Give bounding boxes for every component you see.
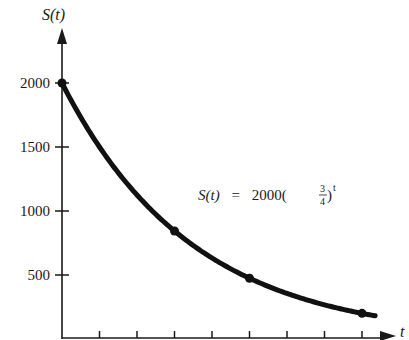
data-point xyxy=(358,309,367,318)
svg-text:S(t) = 2000(: S(t) = 2000( xyxy=(198,187,287,204)
data-point xyxy=(170,227,179,236)
data-point xyxy=(245,274,254,283)
formula-lhs: S(t) xyxy=(198,187,220,204)
formula-equals: = xyxy=(231,187,239,203)
formula-numerator: 3 xyxy=(320,183,325,194)
x-axis-arrow-icon xyxy=(380,331,396,340)
y-tick-label: 500 xyxy=(28,267,51,283)
y-tick-label: 2000 xyxy=(20,75,50,91)
formula-annotation: S(t) = 2000( 3 4 ) t xyxy=(198,182,336,207)
x-ticks xyxy=(100,331,363,338)
data-point xyxy=(58,79,67,88)
svg-text:): ) xyxy=(327,187,332,204)
exponential-decay-chart: S(t) t 500100015002000 S(t) = 2000( 3 4 … xyxy=(0,0,409,340)
formula-exponent: t xyxy=(333,182,336,193)
x-axis-title: t xyxy=(400,323,405,340)
formula-coefficient: 2000 xyxy=(252,187,282,203)
y-axis-title: S(t) xyxy=(42,6,65,24)
y-axis-arrow-icon xyxy=(57,28,67,44)
y-tick-label: 1000 xyxy=(20,203,50,219)
y-tick-label: 1500 xyxy=(20,139,50,155)
formula-denominator: 4 xyxy=(320,196,325,207)
